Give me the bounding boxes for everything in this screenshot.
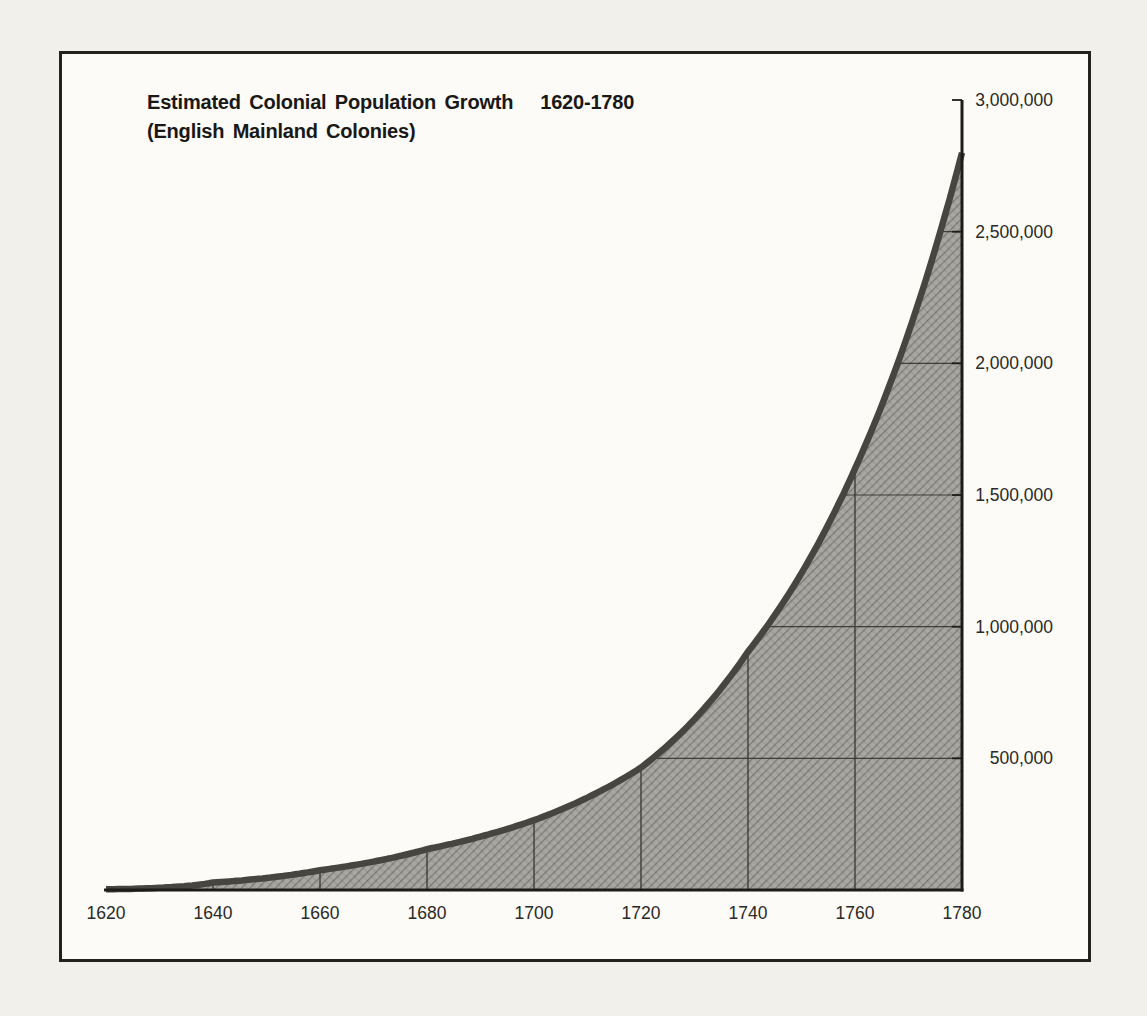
x-tick-label-1620: 1620 (87, 903, 126, 923)
y-tick-label-2500000: 2,500,000 (975, 222, 1053, 242)
area-fill (106, 153, 962, 890)
x-tick-label-1780: 1780 (943, 903, 982, 923)
y-tick-label-2000000: 2,000,000 (975, 353, 1053, 373)
x-tick-label-1700: 1700 (515, 903, 554, 923)
y-tick-label-1000000: 1,000,000 (975, 617, 1053, 637)
y-tick-label-3000000: 3,000,000 (975, 90, 1053, 110)
x-tick-label-1720: 1720 (622, 903, 661, 923)
x-tick-label-1740: 1740 (729, 903, 768, 923)
x-tick-label-1760: 1760 (836, 903, 875, 923)
page-background: Estimated Colonial Population Growth1620… (0, 0, 1147, 1016)
x-tick-label-1640: 1640 (194, 903, 233, 923)
y-tick-label-500000: 500,000 (990, 748, 1054, 768)
population-area-chart: 500,0001,000,0001,500,0002,000,0002,500,… (0, 0, 1147, 1016)
x-tick-label-1660: 1660 (301, 903, 340, 923)
y-tick-label-1500000: 1,500,000 (975, 485, 1053, 505)
x-tick-label-1680: 1680 (408, 903, 447, 923)
